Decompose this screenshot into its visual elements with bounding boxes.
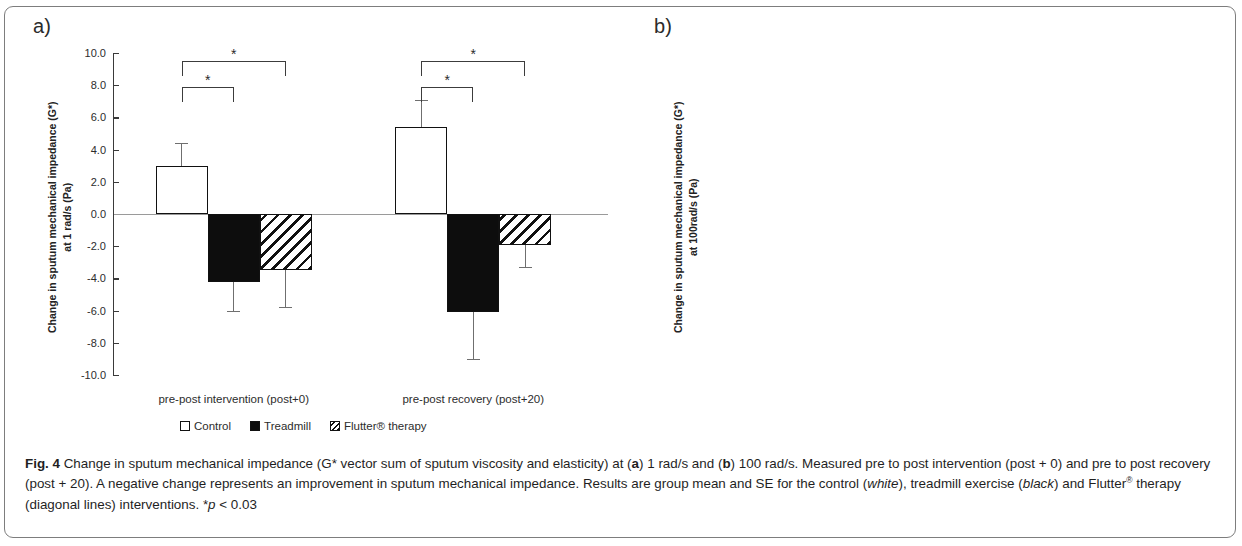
panel-a-letter: a) [33,15,51,38]
significance-star: * [471,47,476,61]
y-axis-tick-mark [113,375,119,376]
y-axis-tick-mark [113,182,119,183]
y-axis-tick-label: 8.0 [62,79,106,91]
panel-a-legend: ControlTreadmillFlutter® therapy [180,420,427,432]
caption-figure-label: Fig. 4 [25,456,60,471]
error-bar [233,282,234,311]
black-square-icon [250,421,260,431]
figure-caption: Fig. 4 Change in sputum mechanical imped… [25,454,1225,516]
significance-star: * [231,47,236,61]
panel-b-y-axis-title-line2: at 100rad/s (Pa) [686,67,701,367]
bar-a-g1-flutter-therapy [499,214,551,245]
legend-item: Flutter® therapy [330,420,427,432]
error-bar-cap [279,307,292,308]
error-bar [473,312,474,359]
bar-a-g0-control [156,166,208,214]
y-axis-tick-label: 6.0 [62,111,106,123]
bar-a-g0-flutter-therapy [260,214,312,270]
significance-star: * [445,73,450,87]
legend-item-label: Flutter® therapy [344,420,427,432]
y-axis-tick-mark [113,278,119,279]
caption-part-5: ) and Flutter [1054,477,1126,492]
legend-item-label: Control [194,420,231,432]
y-axis-tick-label: 2.0 [62,176,106,188]
y-axis-tick-label: -8.0 [62,337,106,349]
caption-part-2: ) 1 rad/s and ( [639,456,722,471]
error-bar [285,270,286,307]
caption-part-4: ), treadmill exercise ( [898,477,1022,492]
y-axis-tick-mark [113,53,119,54]
caption-part-7: < 0.03 [216,497,257,512]
caption-ref-a: a [632,456,639,471]
y-axis-tick-mark [113,117,119,118]
bar-a-g1-treadmill [447,214,499,312]
significance-bracket [182,61,286,76]
white-square-icon [180,421,190,431]
figure-panels: a) Change in sputum mechanical impedance… [5,7,1242,447]
error-bar-cap [175,143,188,144]
panel-a-plot-area: 10.08.06.04.02.00.0-2.0-4.0-6.0-8.0-10.0… [113,53,592,375]
x-axis-category-label: pre-post intervention (post+0) [158,393,309,405]
significance-bracket [421,87,473,102]
y-axis-tick-label: -2.0 [62,240,106,252]
panel-a-y-axis-title-line1: Change in sputum mechanical impedance (G… [46,101,58,333]
hatched-square-icon [330,421,340,431]
caption-part-1: Change in sputum mechanical impedance (G… [64,456,632,471]
y-axis-tick-label: -4.0 [62,272,106,284]
error-bar-cap [227,311,240,312]
error-bar [525,245,526,268]
error-bar [181,143,182,166]
caption-emph-black: black [1023,477,1054,492]
legend-item-label: Treadmill [264,420,311,432]
panel-b-y-axis-title-line1: Change in sputum mechanical impedance (G… [672,101,684,333]
y-axis-tick-mark [113,150,119,151]
x-axis-category-label: pre-post recovery (post+20) [402,393,544,405]
y-axis-tick-label: 0.0 [62,208,106,220]
panel-b-letter: b) [654,15,672,38]
y-axis-tick-label: 4.0 [62,144,106,156]
y-axis-tick-mark [113,311,119,312]
caption-emph-p: p [208,497,215,512]
figure-frame: a) Change in sputum mechanical impedance… [4,6,1236,538]
significance-star: * [205,73,210,87]
legend-item: Control [180,420,231,432]
error-bar [421,100,422,127]
y-axis-tick-label: 10.0 [62,47,106,59]
y-axis-tick-mark [113,246,119,247]
y-axis-tick-mark [113,343,119,344]
y-axis-tick-label: -10.0 [62,369,106,381]
chart-panel-a: a) Change in sputum mechanical impedance… [5,7,626,447]
panel-b-y-axis-title: Change in sputum mechanical impedance (G… [671,67,701,367]
error-bar-cap [519,267,532,268]
caption-emph-white: white [867,477,898,492]
error-bar-cap [467,359,480,360]
significance-bracket [182,87,234,102]
bar-a-g1-control [395,127,447,214]
y-axis-tick-mark [113,85,119,86]
significance-bracket [421,61,525,76]
caption-ref-b: b [722,456,730,471]
legend-item: Treadmill [250,420,311,432]
bar-a-g0-treadmill [208,214,260,282]
chart-panel-b: b) Change in sputum mechanical impedance… [626,7,1242,447]
y-axis-tick-label: -6.0 [62,305,106,317]
